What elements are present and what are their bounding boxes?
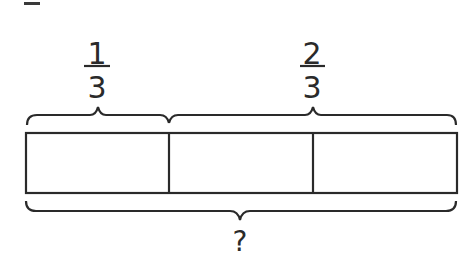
fraction-two-thirds-denominator: 3	[302, 70, 321, 105]
top-brace-two-thirds	[169, 107, 456, 125]
top-brace-one-third	[27, 107, 169, 125]
tape-part-3	[314, 134, 456, 192]
fraction-one-third: 1 3	[84, 36, 110, 105]
fraction-two-thirds: 2 3	[300, 36, 325, 105]
bottom-brace-whole	[26, 201, 456, 220]
tape-bar	[26, 133, 457, 193]
fraction-one-third-denominator: 3	[87, 70, 106, 105]
tape-diagram: 1 3 2 3 ?	[0, 0, 472, 262]
tape-part-2	[170, 134, 312, 192]
tape-part-1	[27, 134, 168, 192]
unknown-total-label: ?	[233, 225, 248, 258]
stray-mark	[24, 2, 40, 5]
